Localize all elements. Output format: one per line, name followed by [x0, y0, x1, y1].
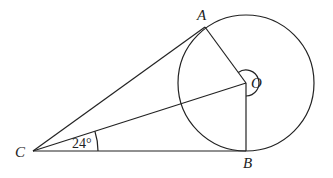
- angle-arc-c: [95, 131, 98, 151]
- label-b: B: [243, 155, 252, 171]
- label-a: A: [196, 7, 207, 23]
- segment-co: [33, 83, 246, 151]
- label-o: O: [251, 75, 262, 91]
- label-c: C: [15, 144, 26, 160]
- angle-label-c: 24°: [72, 136, 92, 151]
- geometry-diagram: A O B C 24°: [0, 0, 333, 178]
- segment-ca: [33, 27, 205, 151]
- segment-oa: [205, 27, 246, 83]
